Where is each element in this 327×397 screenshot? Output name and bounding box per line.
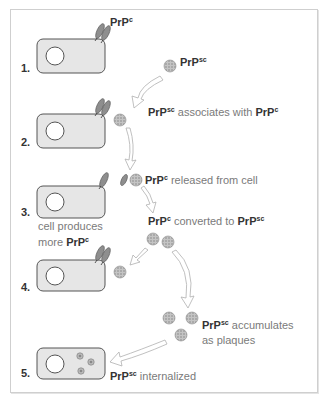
- label-accumulates-text1: accumulates: [229, 319, 294, 331]
- label-accumulates-line1: PrPsc accumulates: [202, 319, 294, 332]
- label-accumulates-line2: as plaques: [202, 334, 294, 347]
- label-internalized-text: internalized: [137, 370, 196, 382]
- label-prpsc-main: PrP: [180, 56, 199, 68]
- prpsc-blob-icon: [162, 236, 174, 248]
- cell-1: [37, 22, 112, 73]
- label-released-text: released from cell: [168, 174, 258, 186]
- cell-4: [37, 244, 126, 291]
- cell-2: [37, 97, 126, 148]
- label-accumulates-term: PrP: [202, 319, 221, 331]
- label-prpc-sup: c: [129, 16, 133, 23]
- prpsc-blob-icon: [175, 329, 187, 341]
- cell-3: [37, 171, 110, 218]
- arrow-icon: [172, 250, 194, 308]
- label-converted-sup2: sc: [257, 215, 265, 222]
- step-number-3: 3.: [21, 206, 30, 218]
- label-cell-produces-term: PrP: [66, 236, 85, 248]
- arrow-icon: [130, 248, 148, 265]
- label-released: PrPc released from cell: [145, 174, 258, 187]
- arrow-icon: [110, 340, 167, 366]
- prpsc-blob-icon: [114, 266, 126, 278]
- step-number-5: 5.: [21, 367, 30, 379]
- arrow-icon: [132, 76, 163, 108]
- cell-5: [37, 348, 105, 379]
- label-internalized: PrPsc internalized: [110, 370, 196, 383]
- prpc-released-icon: [119, 174, 129, 187]
- label-cell-produces-line2: more PrPc: [38, 236, 103, 249]
- label-associates: PrPsc associates with PrPc: [148, 106, 278, 119]
- label-converted-term2: PrP: [238, 215, 257, 227]
- prpsc-blob-icon: [130, 174, 142, 186]
- label-converted-text: converted to: [171, 215, 238, 227]
- label-cell-produces-prefix: more: [38, 236, 66, 248]
- arrow-icon: [141, 186, 156, 213]
- step-number-2: 2.: [21, 136, 30, 148]
- label-converted-term1: PrP: [148, 215, 167, 227]
- label-cell-produces: cell produces more PrPc: [38, 220, 103, 249]
- label-associates-text: associates with: [175, 106, 256, 118]
- label-cell-produces-line1: cell produces: [38, 220, 103, 233]
- label-internalized-term: PrP: [110, 370, 129, 382]
- label-internalized-sup: sc: [129, 370, 137, 377]
- label-prpsc-sup: sc: [199, 56, 207, 63]
- step-number-4: 4.: [21, 281, 30, 293]
- label-released-term: PrP: [145, 174, 164, 186]
- step-number-1: 1.: [21, 62, 30, 74]
- label-prpc: PrPc: [110, 16, 133, 29]
- prpsc-blob-icon: [164, 60, 176, 72]
- arrow-icon: [125, 128, 136, 170]
- label-associates-term1: PrP: [148, 106, 167, 118]
- label-converted: PrPc converted to PrPsc: [148, 215, 264, 228]
- label-associates-sup2: c: [274, 106, 278, 113]
- label-accumulates: PrPsc accumulates as plaques: [202, 319, 294, 347]
- label-prpsc: PrPsc: [180, 56, 207, 69]
- label-associates-sup1: sc: [167, 106, 175, 113]
- prpsc-blob-icon: [147, 233, 159, 245]
- prpsc-blob-icon: [163, 312, 175, 324]
- prpc-receptor-icon: [98, 171, 110, 188]
- prpsc-blob-icon: [186, 312, 198, 324]
- label-associates-term2: PrP: [255, 106, 274, 118]
- label-prpc-main: PrP: [110, 16, 129, 28]
- prpsc-blob-icon: [114, 114, 126, 126]
- label-cell-produces-sup: c: [85, 236, 89, 243]
- label-accumulates-sup: sc: [221, 319, 229, 326]
